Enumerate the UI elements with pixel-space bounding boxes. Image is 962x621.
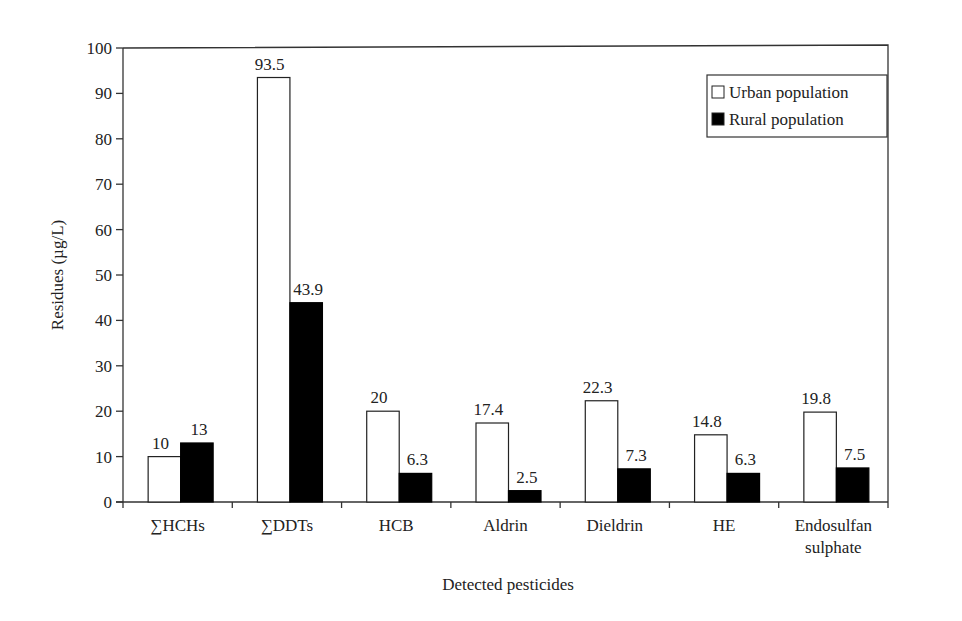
bar-urban	[148, 457, 181, 502]
bar-value-label: 6.3	[407, 450, 428, 469]
bars	[148, 78, 869, 502]
bar-chart: 0102030405060708090100 ∑HCHs∑DDTsHCBAldr…	[0, 0, 962, 621]
bar-value-label: 13	[190, 420, 207, 439]
bar-value-label: 93.5	[255, 55, 285, 74]
bar-value-label: 20	[370, 388, 387, 407]
bar-value-label: 7.5	[844, 445, 865, 464]
x-category-label: ∑DDTs	[261, 516, 314, 535]
bar-value-label: 43.9	[293, 280, 323, 299]
x-category-label: Aldrin	[483, 516, 528, 535]
y-tick-label: 50	[95, 266, 112, 285]
y-tick-label: 100	[87, 39, 113, 58]
bar-rural	[836, 468, 869, 502]
y-tick-label: 20	[95, 402, 112, 421]
bar-value-label: 10	[152, 434, 169, 453]
x-axis: ∑HCHs∑DDTsHCBAldrinDieldrinHEEndosulfans…	[116, 502, 888, 557]
y-tick-label: 80	[95, 130, 112, 149]
bar-value-label: 2.5	[516, 468, 537, 487]
y-tick-label: 30	[95, 357, 112, 376]
x-category-label: Endosulfan	[795, 516, 873, 535]
bar-urban	[585, 401, 618, 502]
x-category-label: HE	[713, 516, 736, 535]
legend-label: Urban population	[729, 83, 849, 102]
y-tick-label: 0	[104, 493, 113, 512]
legend-swatch-urban	[712, 86, 724, 98]
legend-swatch-rural	[712, 113, 724, 125]
y-tick-label: 40	[95, 311, 112, 330]
bar-value-label: 7.3	[625, 446, 646, 465]
bar-urban	[476, 423, 509, 502]
y-tick-label: 60	[95, 221, 112, 240]
y-tick-label: 10	[95, 448, 112, 467]
x-category-label: Dieldrin	[586, 516, 643, 535]
legend: Urban populationRural population	[707, 75, 887, 137]
bar-value-label: 14.8	[692, 412, 722, 431]
x-axis-title: Detected pesticides	[442, 575, 574, 594]
bar-urban	[695, 435, 728, 502]
bar-rural	[181, 443, 214, 502]
x-category-label: sulphate	[805, 538, 862, 557]
y-axis-title: Residues (µg/L)	[48, 220, 67, 330]
bar-urban	[367, 411, 400, 502]
bar-rural	[399, 473, 432, 502]
bar-urban	[804, 412, 837, 502]
x-category-label: ∑HCHs	[150, 516, 205, 535]
bar-rural	[290, 303, 323, 502]
y-axis: 0102030405060708090100	[87, 39, 124, 512]
y-tick-label: 70	[95, 175, 112, 194]
bar-value-label: 6.3	[735, 450, 756, 469]
bar-rural	[509, 491, 542, 502]
bar-value-label: 17.4	[473, 400, 503, 419]
bar-rural	[618, 469, 651, 502]
y-tick-label: 90	[95, 84, 112, 103]
bar-value-label: 22.3	[583, 378, 613, 397]
x-category-label: HCB	[379, 516, 414, 535]
bar-value-label: 19.8	[801, 389, 831, 408]
bar-rural	[727, 473, 760, 502]
bar-urban	[257, 78, 290, 502]
legend-label: Rural population	[729, 110, 844, 129]
